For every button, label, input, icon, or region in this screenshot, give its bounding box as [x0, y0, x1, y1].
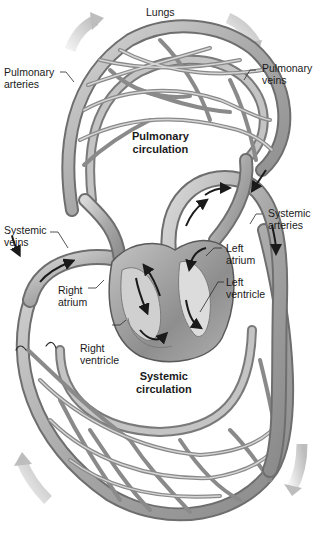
label-systemic-veins-line1: Systemic	[4, 224, 47, 236]
label-systemic-veins-line2: veins	[4, 236, 47, 248]
label-systemic-circulation-line1: Systemic	[136, 370, 192, 383]
label-left-atrium-line2: atrium	[226, 254, 255, 266]
label-systemic-circulation-line2: circulation	[136, 383, 192, 396]
label-systemic-arteries: Systemic arteries	[268, 207, 311, 231]
heart	[109, 241, 234, 362]
label-pulmonary-circulation-line1: Pulmonary	[132, 130, 189, 143]
label-pulmonary-circulation: Pulmonary circulation	[132, 130, 189, 156]
label-systemic-arteries-line2: arteries	[268, 219, 311, 231]
label-right-ventricle-line1: Right	[80, 342, 119, 354]
label-left-ventricle: Left ventricle	[226, 276, 265, 300]
label-right-ventricle: Right ventricle	[80, 342, 119, 366]
label-left-atrium: Left atrium	[226, 242, 255, 266]
label-left-ventricle-line1: Left	[226, 276, 265, 288]
label-pulmonary-circulation-line2: circulation	[132, 143, 189, 156]
label-pulmonary-arteries: Pulmonary arteries	[4, 66, 54, 90]
label-right-atrium-line2: atrium	[58, 296, 87, 308]
label-right-atrium: Right atrium	[58, 284, 87, 308]
label-pulmonary-arteries-line1: Pulmonary	[4, 66, 54, 78]
label-right-atrium-line1: Right	[58, 284, 87, 296]
label-left-atrium-line1: Left	[226, 242, 255, 254]
label-systemic-veins: Systemic veins	[4, 224, 47, 248]
label-pulmonary-veins-line1: Pulmonary	[262, 62, 312, 74]
label-pulmonary-veins-line2: veins	[262, 74, 312, 86]
label-right-ventricle-line2: ventricle	[80, 354, 119, 366]
label-lungs: Lungs	[146, 6, 175, 18]
label-lungs-text: Lungs	[146, 6, 175, 18]
label-systemic-arteries-line1: Systemic	[268, 207, 311, 219]
label-left-ventricle-line2: ventricle	[226, 288, 265, 300]
label-pulmonary-arteries-line2: arteries	[4, 78, 54, 90]
label-systemic-circulation: Systemic circulation	[136, 370, 192, 396]
label-pulmonary-veins: Pulmonary veins	[262, 62, 312, 86]
